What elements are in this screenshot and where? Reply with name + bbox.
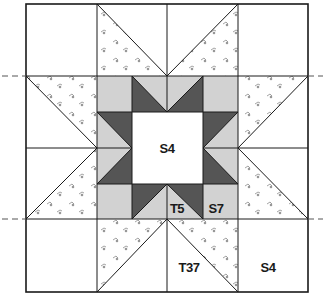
label-center-square: S4 <box>160 141 176 156</box>
label-star-corner: S7 <box>209 201 224 216</box>
label-star-point: T5 <box>170 201 184 216</box>
quilt-block-diagram: S4 T5 S7 T37 S4 <box>0 0 323 303</box>
label-outer-corner: S4 <box>261 260 277 275</box>
label-outer-triangle: T37 <box>179 260 200 275</box>
